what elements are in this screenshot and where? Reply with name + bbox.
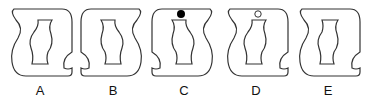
shape-e-icon [292,0,364,80]
option-a[interactable]: A [4,0,76,103]
filled-dot-icon [177,10,185,18]
option-c[interactable]: C [148,0,220,103]
shape-b-icon [77,0,149,80]
option-e[interactable]: E [292,0,364,103]
option-label: E [292,83,364,98]
option-label: A [4,83,76,98]
option-label: B [77,83,149,98]
hollow-dot-icon [255,11,261,17]
option-b[interactable]: B [77,0,149,103]
option-label: C [148,83,220,98]
shape-c-icon [148,0,220,80]
option-d[interactable]: D [220,0,292,103]
shape-a-icon [4,0,76,80]
shape-d-icon [220,0,292,80]
option-label: D [220,83,292,98]
